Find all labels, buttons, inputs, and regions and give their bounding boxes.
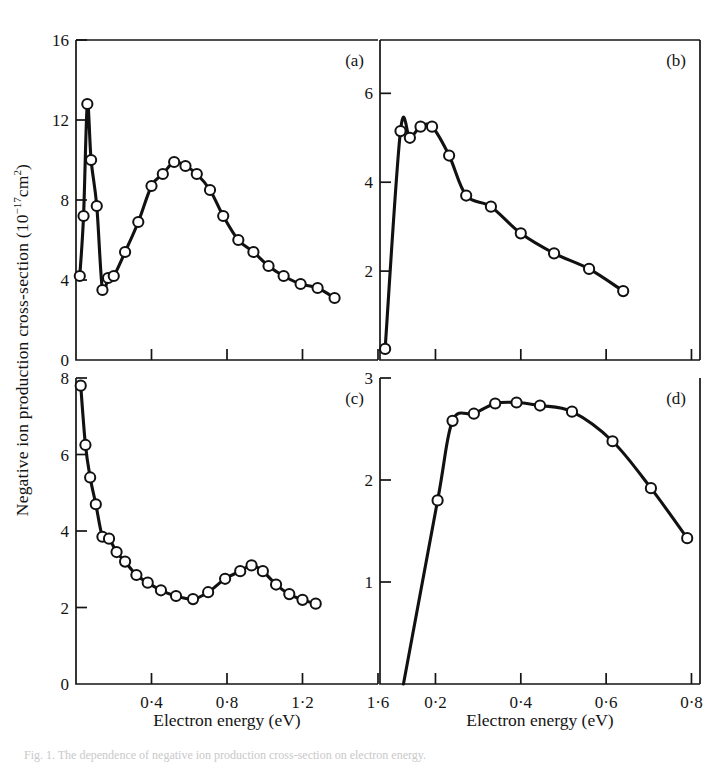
y-tick-label-c-1: 2 xyxy=(61,599,70,618)
axis-frame-a xyxy=(76,40,378,360)
x-axis-title-c: Electron energy (eV) xyxy=(153,710,301,730)
data-point-a xyxy=(120,247,130,257)
y-tick-label-b-0: 2 xyxy=(365,262,374,281)
data-point-a xyxy=(133,217,143,227)
data-point-d xyxy=(535,400,545,410)
data-point-b xyxy=(444,150,454,160)
y-tick-label-a-3: 12 xyxy=(52,111,69,130)
data-point-b xyxy=(427,122,437,132)
data-point-b xyxy=(415,122,425,132)
y-tick-label-c-3: 6 xyxy=(61,446,70,465)
y-tick-label-c-2: 4 xyxy=(61,522,70,541)
data-point-a xyxy=(86,155,96,165)
data-point-b xyxy=(461,190,471,200)
data-point-b xyxy=(516,228,526,238)
data-point-d xyxy=(511,397,521,407)
data-point-c xyxy=(104,534,114,544)
data-point-a xyxy=(146,181,156,191)
data-point-c xyxy=(120,557,130,567)
data-curve-b xyxy=(385,117,623,349)
data-point-c xyxy=(111,547,121,557)
plot-canvas: 0481216(a)246(b)024680·40·81·21·6(c)1230… xyxy=(0,0,728,766)
data-point-c xyxy=(80,440,90,450)
x-tick-label-c-3: 1·6 xyxy=(367,693,390,712)
data-point-c xyxy=(171,591,181,601)
data-point-c xyxy=(76,381,86,391)
data-point-a xyxy=(158,169,168,179)
y-tick-label-c-4: 8 xyxy=(61,369,70,388)
data-point-b xyxy=(584,264,594,274)
figure-caption: Fig. 1. The dependence of negative ion p… xyxy=(24,748,714,763)
y-tick-label-d-0: 1 xyxy=(365,573,374,592)
data-point-c xyxy=(271,579,281,589)
y-tick-label-d-1: 2 xyxy=(365,471,374,490)
data-point-c xyxy=(91,499,101,509)
data-point-b xyxy=(549,248,559,258)
data-curve-d xyxy=(403,402,687,684)
data-point-a xyxy=(169,157,179,167)
data-point-c xyxy=(203,587,213,597)
panel-label-c: (c) xyxy=(345,389,364,408)
data-point-a xyxy=(313,283,323,293)
data-curve-c xyxy=(81,386,316,604)
data-point-d xyxy=(490,398,500,408)
x-axis-title-d: Electron energy (eV) xyxy=(466,710,614,730)
data-point-c xyxy=(246,560,256,570)
y-tick-label-a-1: 4 xyxy=(61,271,70,290)
data-point-a xyxy=(97,285,107,295)
data-point-b xyxy=(395,126,405,136)
figure-root: Negative ion production cross-section (1… xyxy=(0,0,728,766)
data-point-b xyxy=(618,286,628,296)
data-point-c xyxy=(156,585,166,595)
data-point-c xyxy=(235,566,245,576)
data-point-c xyxy=(311,599,321,609)
panel-d: 1230·20·40·60·8(d) xyxy=(365,369,703,712)
y-tick-label-b-2: 6 xyxy=(365,84,374,103)
panel-label-d: (d) xyxy=(666,389,686,408)
data-point-c xyxy=(85,472,95,482)
data-point-a xyxy=(279,271,289,281)
data-point-d xyxy=(567,407,577,417)
data-point-a xyxy=(109,271,119,281)
data-point-c xyxy=(258,566,268,576)
data-point-a xyxy=(82,99,92,109)
data-point-d xyxy=(682,533,692,543)
data-point-a xyxy=(248,247,258,257)
x-tick-label-d-0: 0·2 xyxy=(424,693,447,712)
data-point-a xyxy=(218,211,228,221)
y-tick-label-d-2: 3 xyxy=(365,369,374,388)
panel-b: 246(b) xyxy=(365,40,701,360)
data-point-d xyxy=(607,436,617,446)
panel-c: 024680·40·81·21·6(c) xyxy=(61,369,390,712)
data-point-a xyxy=(233,235,243,245)
data-point-a xyxy=(296,279,306,289)
y-tick-label-b-1: 4 xyxy=(365,173,374,192)
data-point-b xyxy=(380,344,390,354)
data-point-c xyxy=(188,594,198,604)
panel-a: 0481216(a) xyxy=(52,31,378,370)
data-point-a xyxy=(329,293,339,303)
data-point-a xyxy=(180,161,190,171)
data-point-d xyxy=(447,416,457,426)
x-tick-label-d-3: 0·8 xyxy=(680,693,703,712)
data-point-d xyxy=(646,483,656,493)
data-point-a xyxy=(92,201,102,211)
data-point-a xyxy=(192,169,202,179)
y-tick-label-a-4: 16 xyxy=(52,31,69,50)
data-curve-a xyxy=(80,103,335,298)
y-tick-label-a-2: 8 xyxy=(61,191,70,210)
panel-label-b: (b) xyxy=(666,51,686,70)
data-point-b xyxy=(486,202,496,212)
data-point-c xyxy=(143,578,153,588)
data-point-a xyxy=(205,185,215,195)
data-point-a xyxy=(75,271,85,281)
data-point-d xyxy=(469,409,479,419)
data-point-a xyxy=(263,261,273,271)
data-point-c xyxy=(131,570,141,580)
data-point-d xyxy=(433,495,443,505)
data-point-b xyxy=(405,133,415,143)
panel-label-a: (a) xyxy=(345,51,364,70)
data-point-c xyxy=(284,589,294,599)
axis-frame-b xyxy=(380,40,700,360)
axis-frame-c xyxy=(76,378,378,684)
